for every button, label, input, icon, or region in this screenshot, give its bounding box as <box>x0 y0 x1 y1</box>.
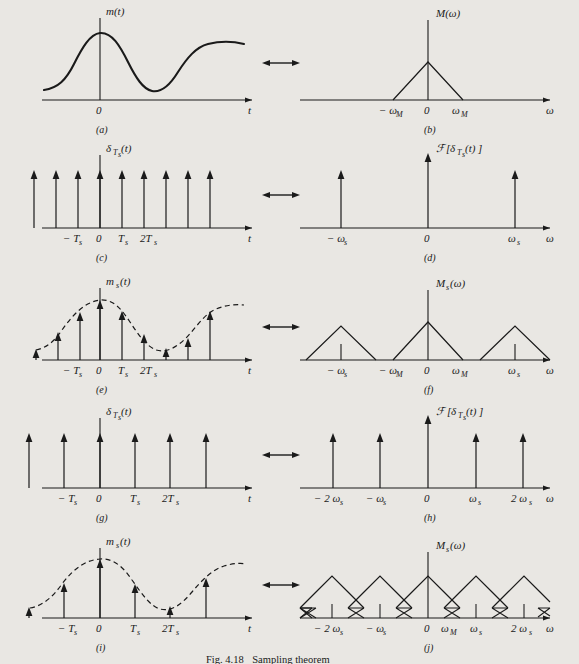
panel-g-tag: (g) <box>96 512 108 524</box>
svg-text:s: s <box>79 238 82 247</box>
svg-text:s: s <box>446 545 449 554</box>
svg-text:− ω: − ω <box>327 364 345 376</box>
svg-text:s: s <box>79 370 82 379</box>
panel-b-signal-label: M(ω) <box>435 7 461 20</box>
svg-text:s: s <box>125 238 128 247</box>
panel-h-xaxis-label: ω <box>546 492 554 504</box>
svg-text:− ω: − ω <box>379 104 397 116</box>
svg-text:m: m <box>106 535 114 547</box>
svg-text:s: s <box>478 498 481 507</box>
panel-d-tag: (d) <box>424 252 436 264</box>
svg-text:s: s <box>517 370 520 379</box>
panel-b-origin-label: 0 <box>424 104 430 116</box>
svg-text:s: s <box>116 281 119 290</box>
svg-text:− T: − T <box>58 492 75 504</box>
svg-text:T: T <box>130 492 137 504</box>
svg-text:s: s <box>74 628 77 637</box>
panel-d-origin-label: 0 <box>424 232 430 244</box>
svg-text:2T: 2T <box>140 364 153 376</box>
svg-text:ω: ω <box>508 232 516 244</box>
panel-f-origin-label: 0 <box>424 364 430 376</box>
svg-text:s: s <box>340 498 343 507</box>
panel-a-origin-label: 0 <box>96 104 102 116</box>
svg-text:− T: − T <box>58 622 75 634</box>
svg-text:s: s <box>479 628 482 637</box>
panel-e-origin-label: 0 <box>96 364 102 376</box>
svg-text:(t): (t) <box>121 142 132 155</box>
svg-text:− 2 ω: − 2 ω <box>314 622 340 634</box>
panel-b-tag: (b) <box>424 124 436 136</box>
svg-text:s: s <box>137 628 140 637</box>
svg-text:s: s <box>383 498 386 507</box>
svg-text:M: M <box>449 628 458 637</box>
panel-b-xaxis-label: ω <box>546 104 554 116</box>
svg-text:M: M <box>395 110 404 119</box>
svg-text:s: s <box>529 498 532 507</box>
svg-text:Fig. 4.18 Sampling theor: Fig. 4.18 Sampling theorem <box>206 654 330 664</box>
svg-text:(ω): (ω) <box>450 539 465 552</box>
svg-text:T: T <box>130 622 137 634</box>
svg-text:M: M <box>435 277 446 289</box>
panel-j-tag: (j) <box>424 642 434 654</box>
panel-j-origin-label: 0 <box>424 622 430 634</box>
svg-text:s: s <box>176 498 179 507</box>
svg-text:− ω: − ω <box>327 232 345 244</box>
svg-text:T: T <box>118 364 125 376</box>
svg-text:− ω: − ω <box>366 622 384 634</box>
figure-caption: Fig. 4.18 Sampling theorem <box>206 654 330 664</box>
panel-h-origin-label: 0 <box>424 492 430 504</box>
svg-text:δ: δ <box>451 405 457 417</box>
svg-text:− T: − T <box>63 364 80 376</box>
sampling-theorem-figure: m(t) 0 t (a) M(ω) − ω M 0 ω M ω (b) <box>0 0 579 664</box>
svg-text:T: T <box>118 232 125 244</box>
panel-f-tag: (f) <box>424 384 434 396</box>
svg-text:s: s <box>340 628 343 637</box>
svg-text:M: M <box>460 110 469 119</box>
svg-text:ω: ω <box>441 622 449 634</box>
panel-j-xaxis-label: ω <box>546 622 554 634</box>
svg-text:s: s <box>74 498 77 507</box>
svg-text:s: s <box>344 238 347 247</box>
svg-text:M: M <box>460 370 469 379</box>
caption-number: Fig. 4.18 <box>206 654 244 664</box>
svg-text:2T: 2T <box>162 622 175 634</box>
svg-text:s: s <box>529 628 532 637</box>
svg-text:2 ω: 2 ω <box>511 622 527 634</box>
svg-text:δ: δ <box>450 142 456 154</box>
svg-text:δ: δ <box>106 142 112 154</box>
svg-text:ω: ω <box>452 104 460 116</box>
svg-text:(t): (t) <box>120 535 131 548</box>
svg-text:s: s <box>446 283 449 292</box>
panel-a-signal-label: m(t) <box>106 5 125 18</box>
svg-text:s: s <box>383 628 386 637</box>
svg-text:(ω): (ω) <box>450 277 465 290</box>
panel-e-tag: (e) <box>96 384 108 396</box>
panel-c-tag: (c) <box>96 252 108 264</box>
svg-text:]: ] <box>477 142 482 154</box>
svg-text:s: s <box>517 238 520 247</box>
svg-text:δ: δ <box>106 405 112 417</box>
svg-text:s: s <box>125 370 128 379</box>
svg-text:s: s <box>154 370 157 379</box>
svg-text:]: ] <box>478 405 483 417</box>
svg-text:M: M <box>435 539 446 551</box>
svg-text:2T: 2T <box>162 492 175 504</box>
panel-g-origin-label: 0 <box>96 492 102 504</box>
svg-text:(t): (t) <box>466 405 477 418</box>
caption-title: Sampling theorem <box>252 654 329 664</box>
svg-text:− ω: − ω <box>379 364 397 376</box>
svg-text:M: M <box>395 370 404 379</box>
panel-h-tag: (h) <box>424 512 436 524</box>
svg-text:ω: ω <box>469 492 477 504</box>
svg-text:2 ω: 2 ω <box>511 492 527 504</box>
svg-text:− T: − T <box>63 232 80 244</box>
svg-text:ω: ω <box>508 364 516 376</box>
svg-text:ω: ω <box>470 622 478 634</box>
svg-text:s: s <box>154 238 157 247</box>
svg-text:s: s <box>137 498 140 507</box>
panel-i-origin-label: 0 <box>96 622 102 634</box>
panel-c-origin-label: 0 <box>96 232 102 244</box>
panel-d-xaxis-label: ω <box>546 232 554 244</box>
svg-text:s: s <box>116 541 119 550</box>
panel-f-xaxis-label: ω <box>546 364 554 376</box>
